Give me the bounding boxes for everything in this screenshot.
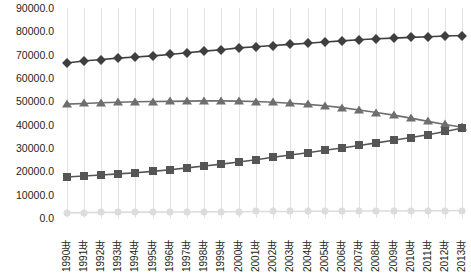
data-point-triangle [79,99,89,107]
data-point-circle [201,208,208,215]
x-axis-tick-label: 2006年 [335,220,349,272]
x-axis-tick-label: 2001年 [249,220,263,272]
data-point-circle [218,208,225,215]
series-line-circle [67,211,463,213]
x-axis-tick-label: 2010年 [404,220,418,272]
data-point-triangle [113,98,123,106]
x-axis-tick-label: 1990年 [60,220,74,272]
data-point-circle [390,208,397,215]
data-point-square [372,139,380,147]
plot-area [58,8,471,218]
x-axis-tick-label: 2000年 [232,220,246,272]
data-point-circle [98,209,105,216]
data-point-circle [132,209,139,216]
data-point-square [97,171,105,179]
data-point-triangle [62,100,72,108]
data-point-square [217,160,225,168]
data-point-square [183,164,191,172]
data-point-triangle [251,97,261,105]
x-axis-tick-label: 2003年 [283,220,297,272]
data-point-triangle [165,97,175,105]
data-point-square [441,127,449,135]
series-line-diamond [67,36,463,64]
data-point-circle [321,208,328,215]
data-point-triangle [354,105,364,113]
y-axis-tick-label: 90000.0 [0,3,54,13]
data-point-square [390,136,398,144]
y-axis-labels: 90000.080000.070000.060000.050000.040000… [0,0,54,226]
data-point-triangle [337,103,347,111]
data-point-circle [235,208,242,215]
data-point-circle [287,208,294,215]
data-point-square [166,166,174,174]
data-point-square [200,162,208,170]
data-point-square [252,156,260,164]
data-point-circle [338,208,345,215]
x-axis-tick-label: 2007年 [352,220,366,272]
data-point-triangle [423,117,433,125]
data-point-circle [356,208,363,215]
series-line-triangle [67,101,463,127]
x-axis-labels: 1990年1991年1992年1993年1994年1995年1996年1997年… [58,220,471,273]
data-point-circle [407,207,414,214]
data-point-triangle [148,97,158,105]
data-point-circle [252,208,259,215]
data-point-square [304,149,312,157]
data-point-circle [115,209,122,216]
line-chart: 90000.080000.070000.060000.050000.040000… [0,0,471,273]
x-axis-tick-label: 2009年 [387,220,401,272]
data-point-triangle [303,100,313,108]
data-point-circle [80,209,87,216]
x-axis-tick-label: 2002年 [266,220,280,272]
data-point-triangle [285,99,295,107]
x-axis-tick-label: 1994年 [128,220,142,272]
x-axis-tick-label: 1993年 [111,220,125,272]
data-point-circle [166,208,173,215]
y-axis-tick-label: 60000.0 [0,73,54,83]
data-point-square [424,131,432,139]
data-point-circle [184,208,191,215]
y-axis-tick-label: 20000.0 [0,166,54,176]
data-point-triangle [216,96,226,104]
data-point-triangle [182,97,192,105]
data-point-square [338,144,346,152]
data-point-square [458,124,466,132]
x-axis-tick-label: 1992年 [94,220,108,272]
data-point-circle [459,207,466,214]
data-point-square [149,167,157,175]
x-axis-tick-label: 1997年 [180,220,194,272]
x-axis-tick-label: 1995年 [146,220,160,272]
series-line-square [67,128,463,177]
data-point-triangle [371,108,381,116]
y-axis-tick-label: 10000.0 [0,190,54,200]
y-axis-tick-label: 40000.0 [0,120,54,130]
y-axis-tick-label: 0.0 [0,213,54,223]
data-point-circle [270,208,277,215]
x-axis-tick-label: 1998年 [197,220,211,272]
data-point-circle [442,207,449,214]
data-point-square [131,169,139,177]
data-point-circle [304,208,311,215]
data-point-triangle [130,97,140,105]
data-point-triangle [234,97,244,105]
data-point-square [235,158,243,166]
x-axis-tick-label: 1996年 [163,220,177,272]
data-point-circle [63,209,70,216]
data-point-triangle [268,98,278,106]
data-point-circle [149,209,156,216]
y-axis-tick-label: 80000.0 [0,26,54,36]
data-point-circle [424,207,431,214]
data-point-triangle [389,111,399,119]
x-axis-tick-label: 1999年 [214,220,228,272]
y-axis-tick-label: 70000.0 [0,50,54,60]
data-point-circle [373,208,380,215]
data-point-square [321,146,329,154]
x-axis-tick-label: 2012年 [438,220,452,272]
x-axis-tick-label: 2005年 [318,220,332,272]
data-point-triangle [406,114,416,122]
data-point-square [355,141,363,149]
x-axis-tick-label: 2008年 [369,220,383,272]
data-point-triangle [320,101,330,109]
data-point-square [114,170,122,178]
data-point-triangle [199,96,209,104]
